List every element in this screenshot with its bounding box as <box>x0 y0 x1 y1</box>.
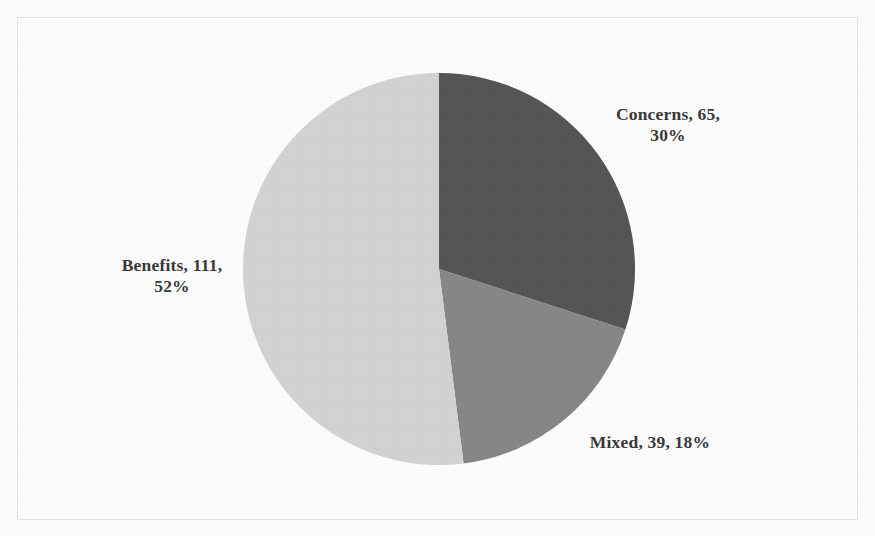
plot-area: Concerns, 65, 30% Mixed, 39, 18% Benefit… <box>0 0 875 536</box>
pie-label-benefits-line2: 52% <box>72 276 272 297</box>
pie-label-concerns-line2: 30% <box>568 125 768 146</box>
pie-label-benefits: Benefits, 111, 52% <box>72 255 272 297</box>
pie-chart-figure: Concerns, 65, 30% Mixed, 39, 18% Benefit… <box>0 0 875 536</box>
pie-label-concerns: Concerns, 65, 30% <box>568 104 768 146</box>
pie-label-mixed-line1: Mixed, 39, 18% <box>555 432 745 453</box>
pie-label-concerns-line1: Concerns, 65, <box>568 104 768 125</box>
pie-label-benefits-line1: Benefits, 111, <box>72 255 272 276</box>
pie-slice-benefits[interactable] <box>243 73 464 465</box>
pie-label-mixed: Mixed, 39, 18% <box>555 432 745 453</box>
